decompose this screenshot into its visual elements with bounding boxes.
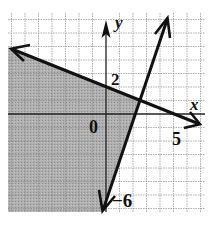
x-axis-label: x xyxy=(190,96,199,113)
shaded-region xyxy=(8,48,140,213)
graph-canvas xyxy=(0,0,210,230)
x-tick-label-5: 5 xyxy=(172,130,181,148)
y-axis-label: y xyxy=(115,14,123,31)
y-tick-label-neg6: −6 xyxy=(112,191,132,210)
y-tick-label-2: 2 xyxy=(111,71,120,88)
origin-label: 0 xyxy=(89,118,98,136)
